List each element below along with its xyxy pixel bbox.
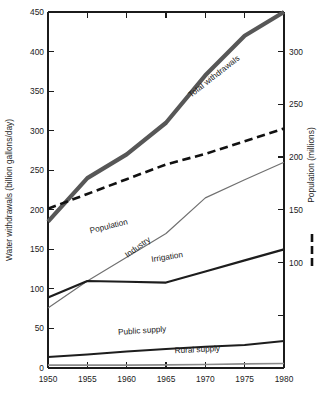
- left-tick-label: 300: [30, 126, 44, 136]
- water-withdrawals-line-chart: 050100150200250300350400450 100150200250…: [0, 0, 323, 398]
- x-tick-label: 1960: [117, 374, 136, 384]
- left-tick-label: 200: [30, 205, 44, 215]
- left-tick-label: 0: [39, 363, 44, 373]
- right-tick-label: 100: [289, 258, 303, 268]
- x-tick-label: 1955: [78, 374, 97, 384]
- left-tick-label: 400: [30, 47, 44, 57]
- right-tick-label: 300: [289, 47, 303, 57]
- left-tick-label: 100: [30, 284, 44, 294]
- left-tick-label: 450: [30, 7, 44, 17]
- x-tick-label: 1975: [235, 374, 254, 384]
- left-tick-label: 50: [35, 323, 45, 333]
- left-tick-label: 150: [30, 244, 44, 254]
- x-tick-label: 1970: [196, 374, 215, 384]
- right-tick-label: 150: [289, 205, 303, 215]
- left-tick-label: 250: [30, 165, 44, 175]
- y-axis-title: Water withdrawals (billion gallons/day): [4, 119, 14, 261]
- x-tick-label: 1965: [157, 374, 176, 384]
- x-tick-label: 1980: [275, 374, 294, 384]
- left-tick-label: 350: [30, 86, 44, 96]
- right-tick-label: 200: [289, 152, 303, 162]
- x-tick-label: 1950: [39, 374, 58, 384]
- right-tick-label: 250: [289, 99, 303, 109]
- y2-axis-title: Population (millions): [306, 127, 316, 203]
- chart-figure: 050100150200250300350400450 100150200250…: [0, 0, 323, 398]
